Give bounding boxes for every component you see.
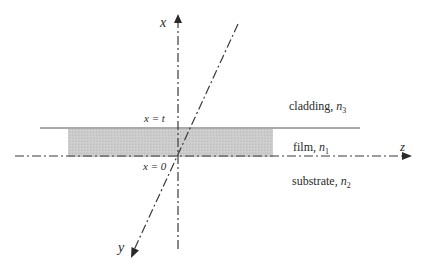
film-name: film, bbox=[293, 140, 319, 154]
film-index-subscript: 1 bbox=[325, 147, 329, 156]
waveguide-diagram: x y z x = t x = 0 cladding, n3 film, n1 … bbox=[0, 0, 427, 271]
cladding-name: cladding, bbox=[289, 99, 336, 113]
z-axis-label: z bbox=[400, 140, 405, 153]
y-axis-label: y bbox=[118, 241, 124, 255]
substrate-index-subscript: 2 bbox=[347, 181, 351, 190]
film-label: film, n1 bbox=[293, 141, 329, 156]
y-axis-arrowhead-icon bbox=[131, 247, 139, 258]
diagram-graphics bbox=[0, 0, 427, 271]
x-axis-arrowhead-icon bbox=[174, 14, 182, 23]
substrate-label: substrate, n2 bbox=[292, 175, 351, 190]
substrate-name: substrate, bbox=[292, 174, 341, 188]
film-layer bbox=[68, 129, 273, 157]
x-axis-label: x bbox=[160, 16, 166, 30]
cladding-index-subscript: 3 bbox=[342, 106, 346, 115]
boundary-label-bottom: x = 0 bbox=[143, 161, 166, 172]
cladding-label: cladding, n3 bbox=[289, 100, 346, 115]
boundary-label-top: x = t bbox=[144, 113, 165, 124]
